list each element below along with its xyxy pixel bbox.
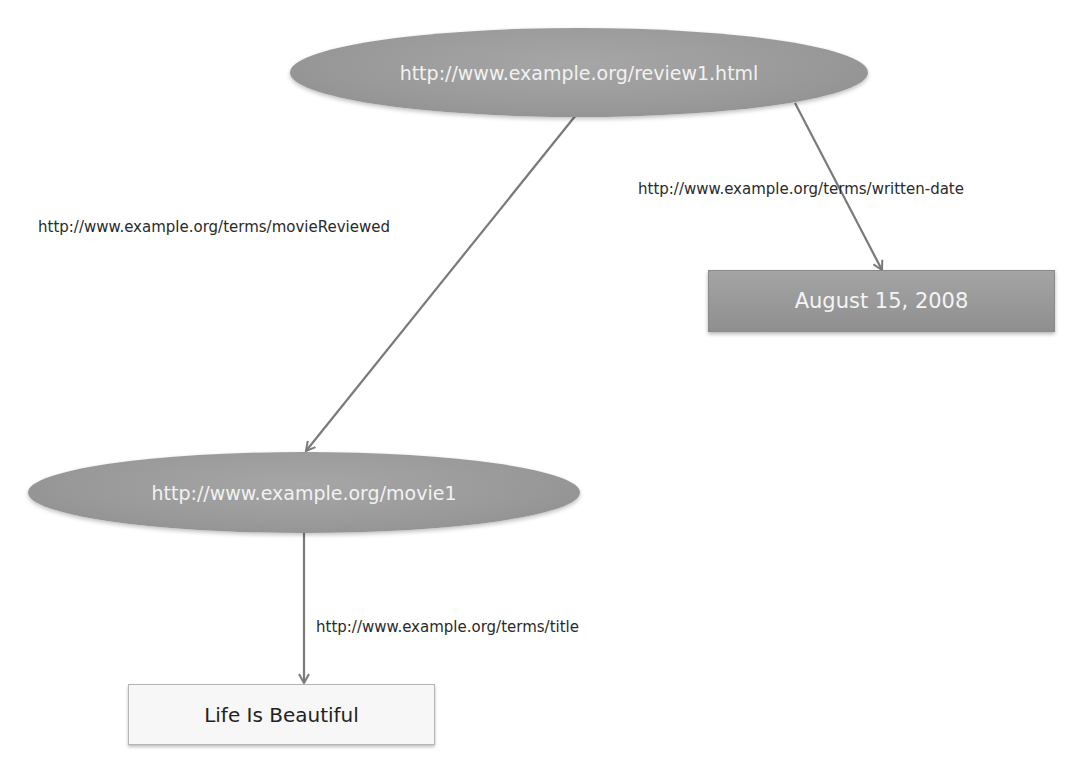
node-date-label: August 15, 2008 [795, 289, 969, 313]
edge-label-written-date: http://www.example.org/terms/written-dat… [638, 180, 964, 198]
edges-layer [0, 0, 1076, 779]
node-movie-label: http://www.example.org/movie1 [152, 482, 457, 504]
node-title-literal: Life Is Beautiful [128, 684, 435, 745]
edge-movie-reviewed-arrow [306, 115, 576, 451]
node-title-label: Life Is Beautiful [204, 703, 359, 727]
edge-label-title: http://www.example.org/terms/title [316, 618, 579, 636]
node-movie-resource: http://www.example.org/movie1 [28, 452, 580, 533]
node-review-resource: http://www.example.org/review1.html [290, 28, 868, 117]
node-review-label: http://www.example.org/review1.html [400, 62, 759, 84]
node-date-literal: August 15, 2008 [708, 270, 1055, 332]
edge-label-movie-reviewed: http://www.example.org/terms/movieReview… [38, 218, 390, 236]
